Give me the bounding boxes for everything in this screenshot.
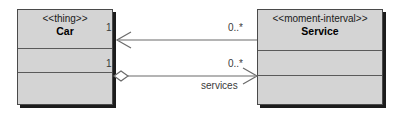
aggregation-diamond-icon <box>114 71 128 81</box>
multiplicity-label-car-top: 1 <box>106 22 112 34</box>
multiplicity-label-service-bottom: 0..* <box>228 58 243 70</box>
relationship-edges <box>0 0 400 117</box>
role-label-services: services <box>201 80 238 92</box>
uml-class-diagram: <<thing>> Car <<moment-interval>> Servic… <box>0 0 400 117</box>
multiplicity-label-service-top: 0..* <box>228 22 243 34</box>
multiplicity-label-car-bottom: 1 <box>106 58 112 70</box>
edge-top-association[interactable] <box>117 32 257 48</box>
